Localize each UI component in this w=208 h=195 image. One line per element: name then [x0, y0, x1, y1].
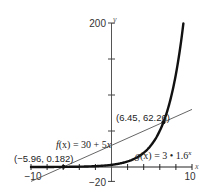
- function-graph: y x 200 −20 −10 10 (−5.96, 0.182) (6.45,…: [0, 0, 208, 195]
- intersection-point-left: [62, 165, 66, 169]
- intersection-label-left: (−5.96, 0.182): [14, 153, 73, 164]
- y-max-label: 200: [89, 18, 106, 29]
- x-max-label: 10: [184, 171, 196, 182]
- g-function-label: g(x) = 3 • 1.6x: [135, 149, 192, 162]
- y-axis-name: y: [112, 15, 117, 24]
- f-rest: (x) = 30 + 5: [59, 139, 107, 151]
- f-var: x: [106, 139, 112, 150]
- g-exp: x: [187, 149, 192, 157]
- g-rest: (x) = 3 • 1.6: [140, 150, 188, 162]
- intersection-label-right: (6.45, 62.26): [116, 112, 170, 123]
- x-axis-name: x: [194, 162, 199, 171]
- f-function-label: f(x) = 30 + 5x: [56, 139, 112, 151]
- y-min-label: −20: [89, 177, 106, 188]
